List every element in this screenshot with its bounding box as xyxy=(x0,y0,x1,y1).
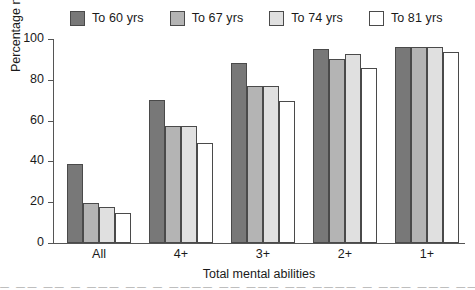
bar-groups: All4+3+2+1+ xyxy=(53,39,465,243)
bar-1plus-to-81-yrs xyxy=(443,52,459,243)
legend-swatch-to-60-yrs xyxy=(70,11,85,26)
y-tick-label-40: 40 xyxy=(30,154,44,167)
cropped-footer-text: — —— —— — ——— —— — ———— —— ——— —— ———— —… xyxy=(0,284,475,290)
bar-all-to-74-yrs xyxy=(99,207,115,243)
bar-1plus-to-67-yrs xyxy=(411,47,427,243)
bar-4plus-to-81-yrs xyxy=(197,143,213,243)
x-axis-line xyxy=(53,243,465,244)
y-tick-label-100: 100 xyxy=(23,32,44,45)
bar-1plus-to-74-yrs xyxy=(427,47,443,243)
bar-1plus-to-60-yrs xyxy=(395,47,411,243)
bar-2plus-to-74-yrs xyxy=(345,54,361,243)
x-tick-label-all: All xyxy=(67,248,131,261)
legend-swatch-to-74-yrs xyxy=(269,11,284,26)
bar-group-1plus: 1+ xyxy=(395,39,459,243)
x-tick-label-4plus: 4+ xyxy=(149,248,213,261)
x-tick-label-1plus: 1+ xyxy=(395,248,459,261)
bar-group-4plus: 4+ xyxy=(149,39,213,243)
cropped-footer-strip: — —— —— — ——— —— — ———— —— ——— —— ———— —… xyxy=(0,284,475,290)
plot-area: 020406080100 All4+3+2+1+ xyxy=(53,39,465,243)
y-tick-label-0: 0 xyxy=(37,236,44,249)
y-tick-label-60: 60 xyxy=(30,114,44,127)
y-tick-0: 0 xyxy=(48,243,53,244)
bar-3plus-to-67-yrs xyxy=(247,86,263,243)
legend-label-to-81-yrs: To 81 yrs xyxy=(391,12,443,25)
legend-swatch-to-81-yrs xyxy=(369,11,384,26)
legend-label-to-74-yrs: To 74 yrs xyxy=(291,12,343,25)
legend-item-to-67-yrs: To 67 yrs xyxy=(170,7,244,29)
bar-4plus-to-74-yrs xyxy=(181,126,197,243)
bar-4plus-to-67-yrs xyxy=(165,126,181,243)
y-axis-title: Percentage maintenance over 7 years xyxy=(10,0,23,72)
bar-4plus-to-60-yrs xyxy=(149,100,165,243)
legend-item-to-60-yrs: To 60 yrs xyxy=(70,7,144,29)
bar-all-to-60-yrs xyxy=(67,164,83,243)
x-axis-title: Total mental abilities xyxy=(53,268,465,281)
chart-legend: To 60 yrs To 67 yrs To 74 yrs To 81 yrs xyxy=(70,7,465,29)
legend-item-to-74-yrs: To 74 yrs xyxy=(269,7,343,29)
legend-label-to-60-yrs: To 60 yrs xyxy=(92,12,144,25)
bar-3plus-to-60-yrs xyxy=(231,63,247,243)
y-tick-label-20: 20 xyxy=(30,195,44,208)
bar-group-3plus: 3+ xyxy=(231,39,295,243)
bar-3plus-to-74-yrs xyxy=(263,86,279,243)
legend-label-to-67-yrs: To 67 yrs xyxy=(192,12,244,25)
bar-chart-figure: To 60 yrs To 67 yrs To 74 yrs To 81 yrs … xyxy=(0,0,475,290)
bar-3plus-to-81-yrs xyxy=(279,101,295,243)
bar-2plus-to-67-yrs xyxy=(329,59,345,243)
y-axis-title-wrapper: Percentage maintenance over 7 years xyxy=(13,32,27,242)
bar-group-2plus: 2+ xyxy=(313,39,377,243)
x-tick-label-2plus: 2+ xyxy=(313,248,377,261)
y-tick-label-80: 80 xyxy=(30,73,44,86)
bar-2plus-to-81-yrs xyxy=(361,68,377,243)
legend-item-to-81-yrs: To 81 yrs xyxy=(369,7,443,29)
bar-all-to-81-yrs xyxy=(115,213,131,243)
bar-all-to-67-yrs xyxy=(83,203,99,243)
x-tick-label-3plus: 3+ xyxy=(231,248,295,261)
legend-swatch-to-67-yrs xyxy=(170,11,185,26)
bar-2plus-to-60-yrs xyxy=(313,49,329,243)
bar-group-all: All xyxy=(67,39,131,243)
